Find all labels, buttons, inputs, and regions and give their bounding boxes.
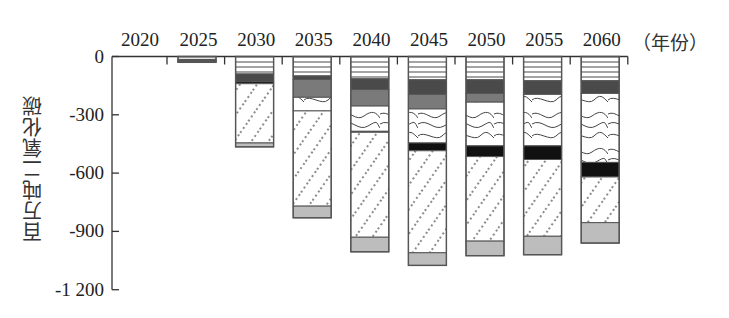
bar-segment-dark-grey xyxy=(236,74,274,82)
bar-segment-black xyxy=(581,162,619,177)
bar-segment-dark-grey xyxy=(466,80,504,94)
bar-segment-medium-grey xyxy=(408,94,446,109)
bar-segment-dotted-diagonal xyxy=(351,132,389,237)
bar-segment-horizontal-stripes xyxy=(236,57,274,74)
bar-segment-dotted-diagonal xyxy=(524,159,562,236)
bar-segment-contour xyxy=(581,93,619,162)
bar-segment-medium-grey xyxy=(351,90,389,107)
bar-segment-black xyxy=(408,143,446,151)
bar-segment-dotted-diagonal xyxy=(466,157,504,242)
bar-segment-dark-grey xyxy=(408,80,446,95)
bar-2035 xyxy=(293,57,331,218)
bar-segment-contour xyxy=(408,109,446,143)
bar-segment-dark-grey xyxy=(293,76,331,79)
bar-2060 xyxy=(581,57,619,244)
bar-2040 xyxy=(351,57,389,252)
y-tick-label: -900 xyxy=(69,220,104,241)
x-axis-unit: （年份） xyxy=(632,28,708,55)
bar-segment-dotted-diagonal xyxy=(581,177,619,223)
x-tick-label: 2055 xyxy=(525,29,563,50)
bar-segment-dark-grey xyxy=(524,81,562,95)
y-tick-label: 0 xyxy=(95,46,105,67)
bar-segment-light-grey xyxy=(351,237,389,252)
bar-2025 xyxy=(178,57,216,63)
x-tick-label: 2020 xyxy=(121,29,159,50)
bar-segment-horizontal-stripes xyxy=(293,57,331,76)
bar-segment-light-grey xyxy=(581,223,619,243)
bar-segment-light-grey xyxy=(466,241,504,256)
bar-segment-horizontal-stripes xyxy=(408,57,446,80)
y-tick-label: -600 xyxy=(69,162,104,183)
x-tick-label: 2040 xyxy=(352,29,390,50)
bar-segment-dotted-diagonal xyxy=(408,151,446,253)
bar-segment-horizontal-stripes xyxy=(524,57,562,81)
bar-segment-horizontal-stripes xyxy=(581,57,619,81)
bar-segment-dotted-diagonal xyxy=(236,84,274,143)
x-tick-label: 2060 xyxy=(583,29,621,50)
x-tick-label: 2035 xyxy=(295,29,333,50)
bar-segment-light-grey xyxy=(408,253,446,266)
bar-segment-medium-grey xyxy=(293,79,331,97)
x-tick-label: 2045 xyxy=(410,29,448,50)
bar-segment-contour xyxy=(466,102,504,146)
y-tick-label: -1 200 xyxy=(55,279,104,300)
bar-segment-black xyxy=(466,146,504,157)
x-tick-label: 2050 xyxy=(468,29,506,50)
bar-segment-light-grey xyxy=(293,206,331,218)
x-tick-label: 2030 xyxy=(237,29,275,50)
bar-segment-horizontal-stripes xyxy=(466,57,504,80)
bar-2055 xyxy=(524,57,562,255)
bar-segment-dark-grey xyxy=(581,81,619,94)
bar-segment-contour xyxy=(524,94,562,145)
bar-segment-dark-grey xyxy=(351,79,389,90)
y-tick-label: -300 xyxy=(69,104,104,125)
bar-segment-contour xyxy=(293,97,331,111)
bar-2045 xyxy=(408,57,446,266)
stacked-bar-chart: 0-300-600-900-1 200202020252030203520402… xyxy=(0,0,729,318)
bar-segment-black xyxy=(524,146,562,160)
bars xyxy=(178,57,619,266)
y-axis-title: 百万吨二氧化碳 xyxy=(18,84,48,254)
bar-segment-light-grey xyxy=(524,236,562,254)
bar-2030 xyxy=(236,57,274,147)
bar-segment-contour xyxy=(351,106,389,131)
bar-segment-medium-grey xyxy=(466,93,504,102)
bar-2050 xyxy=(466,57,504,256)
x-tick-label: 2025 xyxy=(180,29,218,50)
bar-segment-dotted-diagonal xyxy=(293,111,331,206)
bar-segment-horizontal-stripes xyxy=(351,57,389,79)
